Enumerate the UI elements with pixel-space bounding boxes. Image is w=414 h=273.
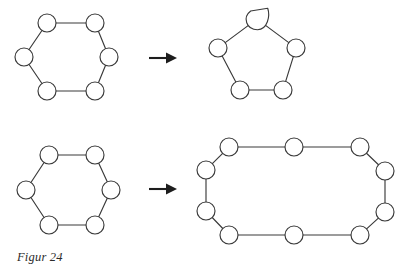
graph-edge — [222, 56, 236, 82]
graph-node — [86, 82, 104, 100]
graph-node — [86, 14, 104, 32]
hexagon-ring-top — [15, 14, 118, 100]
graph-node — [287, 39, 305, 57]
figure-diagram-svg — [0, 0, 414, 273]
arrow-head — [166, 53, 177, 64]
graph-node — [376, 162, 394, 180]
graph-edge — [367, 218, 379, 229]
graph-edge — [29, 30, 42, 49]
graph-node — [220, 226, 238, 244]
graph-node — [197, 161, 215, 179]
graph-node-merged — [246, 8, 268, 29]
graph-edge — [31, 198, 44, 218]
graph-node — [351, 226, 369, 244]
graph-node — [285, 226, 303, 244]
graph-edge — [286, 57, 294, 82]
graph-node — [86, 216, 104, 234]
graph-node — [100, 48, 118, 66]
graph-edge — [212, 153, 222, 163]
graph-node — [15, 48, 33, 66]
graph-node — [17, 181, 35, 199]
graph-edge — [99, 163, 108, 182]
graph-node — [86, 146, 104, 164]
graph-node — [274, 81, 292, 99]
graph-node — [351, 138, 369, 156]
graph-edge — [99, 198, 108, 217]
graph-node — [102, 181, 120, 199]
graph-node — [376, 203, 394, 221]
graph-node — [231, 81, 249, 99]
graph-edge — [366, 153, 378, 165]
graph-node — [40, 216, 58, 234]
graph-node — [220, 138, 238, 156]
graph-edge — [225, 24, 250, 42]
figure-caption: Figur 24 — [17, 250, 63, 265]
pentagon-ring-with-merged-node — [209, 8, 305, 99]
graph-node — [209, 39, 227, 57]
graph-node — [38, 82, 56, 100]
graph-edge — [98, 65, 105, 82]
graph-edge — [31, 163, 44, 183]
graph-node — [197, 202, 215, 220]
graph-edge — [212, 218, 223, 229]
graph-edge — [98, 31, 105, 48]
graph-edge — [29, 64, 42, 83]
dodecagon-elongated-ring — [197, 138, 394, 244]
arrow-head — [166, 184, 177, 195]
graph-node — [285, 138, 303, 156]
graph-node — [40, 146, 58, 164]
arrow-right-2-icon — [149, 184, 177, 195]
graph-node — [38, 14, 56, 32]
arrow-right-1-icon — [149, 53, 177, 64]
hexagon-ring-bottom — [17, 146, 120, 234]
figure-container: Figur 24 — [0, 0, 414, 273]
graph-edge — [264, 24, 289, 42]
